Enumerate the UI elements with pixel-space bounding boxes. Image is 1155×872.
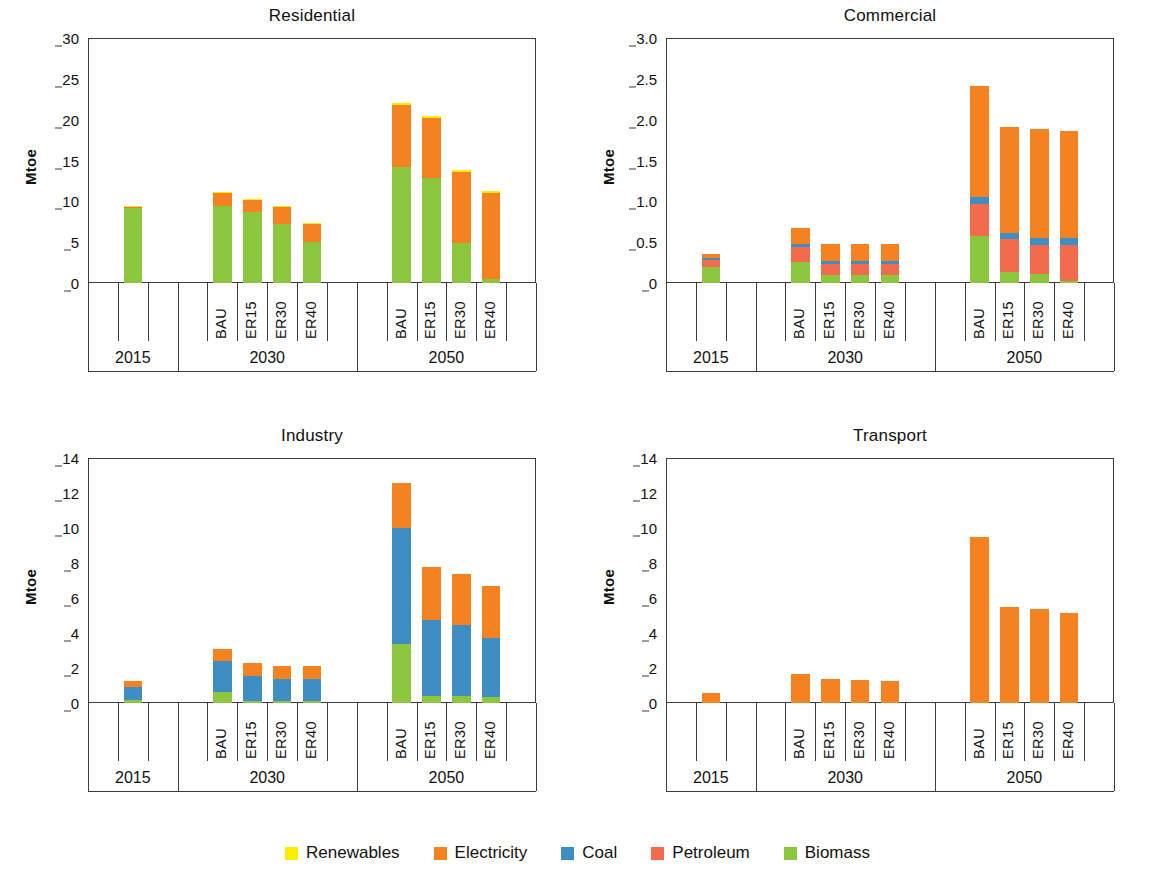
bar-segment-coal: [273, 679, 292, 701]
scenario-separator-tick: [476, 283, 477, 341]
bar: [243, 199, 262, 283]
scenario-label-er40: ER40: [483, 709, 498, 759]
bar-segment-biomass: [213, 206, 232, 283]
panel-commercial: CommercialMtoe00.51.01.52.02.53.02015BAU…: [578, 0, 1155, 400]
legend-item-renewables: Renewables: [285, 843, 400, 863]
bar-segment-coal: [970, 197, 989, 204]
scenario-separator-tick: [726, 283, 727, 341]
legend-swatch-coal: [561, 847, 574, 860]
scenario-separator-tick: [506, 703, 507, 761]
bar-segment-coal: [791, 244, 810, 247]
group-rule: [756, 791, 935, 792]
y-tick-mark: [64, 606, 71, 607]
bar-segment-biomass: [213, 692, 232, 703]
scenario-separator-tick: [965, 283, 966, 341]
bar: [452, 574, 471, 704]
y-axis-label: Mtoe: [600, 149, 617, 185]
plot-area: 02468101214: [666, 458, 1114, 703]
x-axis: 2015BAUER15ER30ER402030BAUER15ER30ER4020…: [666, 283, 1114, 371]
bar-segment-biomass: [422, 696, 441, 703]
scenario-separator-tick: [696, 283, 697, 341]
scenario-separator-tick: [446, 283, 447, 341]
group-rule: [357, 791, 536, 792]
y-tick-mark: [55, 466, 62, 467]
scenario-separator-tick: [237, 283, 238, 341]
bar: [1030, 129, 1049, 283]
bar: [482, 586, 501, 703]
group-label-2050: 2050: [935, 349, 1114, 367]
bar-segment-electricity: [821, 244, 840, 261]
group-rule: [935, 791, 1114, 792]
y-tick-label: 2: [71, 661, 88, 676]
y-tick-mark: [642, 711, 649, 712]
bar-segment-electricity: [970, 86, 989, 197]
bar-segment-renewables: [392, 103, 411, 105]
bar-segment-electricity: [422, 567, 441, 620]
x-axis: 2015BAUER15ER30ER402030BAUER15ER30ER4020…: [88, 703, 536, 791]
group-label-2050: 2050: [357, 349, 536, 367]
bar-segment-electricity: [213, 193, 232, 206]
bar-segment-petroleum: [970, 204, 989, 237]
bar: [881, 244, 900, 283]
y-tick-label: 10: [62, 194, 88, 209]
bar: [303, 666, 322, 703]
x-axis: 2015BAUER15ER30ER402030BAUER15ER30ER4020…: [88, 283, 536, 371]
group-label-2015: 2015: [666, 769, 756, 787]
group-label-2030: 2030: [756, 769, 935, 787]
bar-segment-electricity: [1000, 607, 1019, 703]
y-tick-mark: [55, 127, 62, 128]
y-tick-mark: [633, 536, 640, 537]
y-tick-label: 12: [640, 486, 666, 501]
bar: [970, 537, 989, 703]
group-rule: [666, 791, 756, 792]
scenario-label-er40: ER40: [304, 709, 319, 759]
bar-segment-electricity: [702, 693, 721, 704]
bar-segment-electricity: [881, 244, 900, 261]
plot-area: 02468101214: [88, 458, 536, 703]
scenario-separator-tick: [875, 283, 876, 341]
bar-segment-biomass: [881, 275, 900, 283]
bar: [851, 244, 870, 283]
bar-segment-electricity: [1060, 131, 1079, 238]
legend-item-electricity: Electricity: [434, 843, 528, 863]
scenario-separator-tick: [965, 703, 966, 761]
scenario-label-bau: BAU: [214, 709, 229, 759]
figure-root: ResidentialMtoe0510152025302015BAUER15ER…: [0, 0, 1155, 872]
scenario-separator-tick: [995, 703, 996, 761]
bar-segment-coal: [482, 638, 501, 697]
scenario-label-er30: ER30: [453, 289, 468, 339]
bar-segment-biomass: [273, 224, 292, 283]
bar-segment-coal: [422, 620, 441, 696]
bar-segment-electricity: [124, 681, 143, 687]
bar-segment-coal: [821, 261, 840, 264]
bar: [243, 663, 262, 703]
legend-label: Biomass: [805, 843, 870, 863]
bar-segment-coal: [124, 687, 143, 700]
scenario-label-bau: BAU: [394, 289, 409, 339]
group-rule: [666, 371, 756, 372]
bar-segment-coal: [1000, 233, 1019, 239]
scenario-separator-tick: [297, 703, 298, 761]
bar-segment-biomass: [702, 267, 721, 283]
y-tick-label: 25: [62, 71, 88, 86]
bar-segment-coal: [213, 661, 232, 692]
bar-segment-petroleum: [881, 264, 900, 275]
plot-area: 051015202530: [88, 38, 536, 283]
group-rule: [935, 371, 1114, 372]
legend-swatch-renewables: [285, 847, 298, 860]
bar-segment-electricity: [243, 663, 262, 676]
group-rule: [88, 371, 178, 372]
y-tick-mark: [629, 86, 636, 87]
y-tick-label: 6: [649, 591, 666, 606]
scenario-label-er40: ER40: [882, 289, 897, 339]
bar-segment-petroleum: [851, 264, 870, 275]
y-tick-label: 14: [640, 451, 666, 466]
plot-area: 00.51.01.52.02.53.0: [666, 38, 1114, 283]
bar-segment-biomass: [821, 275, 840, 283]
bar: [303, 223, 322, 283]
y-tick-label: 14: [62, 451, 88, 466]
y-tick-mark: [55, 46, 62, 47]
bar-segment-electricity: [392, 105, 411, 166]
bar: [881, 681, 900, 703]
chart-legend: RenewablesElectricityCoalPetroleumBiomas…: [0, 838, 1155, 868]
